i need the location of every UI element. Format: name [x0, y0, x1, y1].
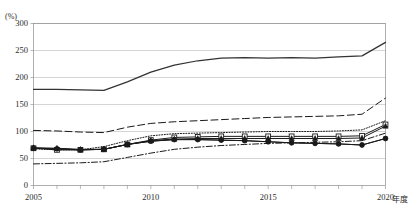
- data-point: [289, 140, 294, 145]
- y-axis-tick-label-0: 0: [2, 181, 28, 189]
- data-point: [242, 138, 247, 143]
- markers-series-open-square: [31, 122, 388, 152]
- data-point: [31, 146, 36, 151]
- data-point: [55, 146, 60, 151]
- data-point: [313, 141, 318, 146]
- data-point: [336, 142, 341, 147]
- x-tickmarks: [31, 24, 386, 190]
- chart-container: (%) 050100150200250300 2005201020152020 …: [0, 0, 420, 212]
- line-chart-canvas: [0, 0, 420, 212]
- series-line-series-solid-thick-top: [34, 42, 386, 90]
- series-line-series-dotted: [34, 121, 386, 150]
- data-point: [219, 138, 224, 143]
- x-axis-tick-label-2010: 2010: [134, 193, 168, 201]
- data-point: [383, 136, 388, 141]
- series-layer: [31, 42, 388, 163]
- data-point: [266, 139, 271, 144]
- data-point: [195, 137, 200, 142]
- y-axis-tick-label-200: 200: [2, 73, 28, 81]
- y-axis-tick-label-50: 50: [2, 154, 28, 162]
- data-point: [102, 147, 107, 152]
- data-point: [78, 147, 83, 152]
- x-axis-tick-label-2005: 2005: [17, 193, 51, 201]
- series-line-series-dashed: [34, 98, 386, 133]
- series-line-series-filled-triangle: [34, 126, 386, 149]
- x-axis-unit-label: 年度: [392, 196, 408, 204]
- y-axis-tick-label-150: 150: [2, 100, 28, 108]
- data-point: [148, 139, 153, 144]
- y-axis-tick-label-100: 100: [2, 127, 28, 135]
- markers-series-filled-triangle: [31, 123, 388, 151]
- series-line-series-filled-circle-low: [34, 139, 386, 150]
- data-point: [172, 137, 177, 142]
- y-axis-tick-label-300: 300: [2, 19, 28, 27]
- x-axis-tick-label-2015: 2015: [251, 193, 285, 201]
- data-point: [125, 142, 130, 147]
- data-point: [360, 143, 365, 148]
- series-line-series-dash-dot: [34, 133, 386, 164]
- y-axis-tick-label-250: 250: [2, 46, 28, 54]
